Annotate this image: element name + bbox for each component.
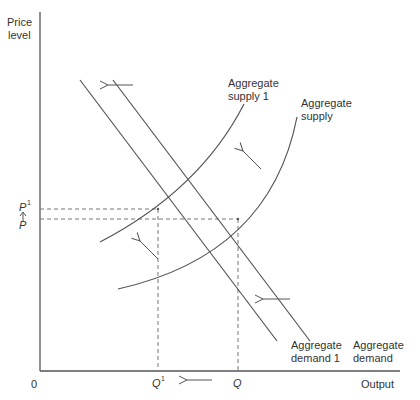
equilibrium-initial: [237, 218, 239, 220]
shift-arrow-supply-lower: [140, 241, 158, 259]
tick-label-q: Q: [233, 377, 242, 389]
label-aggregate-supply-1-line1: Aggregate: [228, 77, 279, 89]
label-aggregate-supply-line1: Aggregate: [301, 97, 352, 109]
series-aggregate-demand: [113, 80, 310, 341]
series-aggregate-demand-1: [80, 80, 277, 341]
series-aggregate-supply-1: [100, 104, 244, 242]
series-aggregate-supply: [118, 117, 297, 289]
label-aggregate-demand-1-line2: demand 1: [291, 352, 340, 364]
tick-label-q1-sup: 1: [161, 375, 165, 382]
label-aggregate-demand-line2: demand: [353, 352, 393, 364]
label-aggregate-demand-line1: Aggregate: [353, 339, 404, 351]
tick-label-p: P: [19, 219, 27, 231]
label-aggregate-demand-1-line1: Aggregate: [291, 339, 342, 351]
tick-label-p1-sup: 1: [27, 199, 31, 206]
label-aggregate-supply-1-line2: supply 1: [228, 90, 269, 102]
origin-label: 0: [31, 378, 37, 390]
label-aggregate-supply-line2: supply: [301, 110, 333, 122]
y-axis-label-line1: Price: [7, 16, 32, 28]
y-axis-label-line2: level: [8, 29, 31, 41]
equilibrium-new: [157, 208, 159, 210]
x-axis-label: Output: [361, 378, 394, 390]
tick-label-q1: Q: [152, 377, 161, 389]
shift-arrow-supply-upper: [243, 151, 261, 169]
chart-canvas: Price level Output 0 Aggregate supply 1 …: [0, 0, 420, 400]
